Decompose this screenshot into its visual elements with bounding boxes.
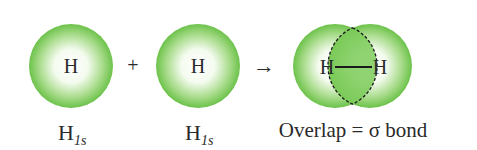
plus-sign: + [127,54,138,76]
overlap-caption: Overlap = σ bond [279,118,428,142]
sigma-bond-diagram: H H1s + H H1s → H H Overlap = σ bond [0,0,477,150]
molecule-symbol-left: H [320,56,334,78]
h2-molecule: H H [293,24,412,108]
hydrogen-atom-2: H [156,24,240,108]
reaction-arrow: → [253,53,275,78]
molecule-symbol-right: H [373,56,387,78]
hydrogen-atom-1: H [29,24,113,108]
atom-symbol-1: H [64,55,78,77]
atom-label-2: H1s [185,120,214,148]
atom-symbol-2: H [191,55,205,77]
atom-label-1: H1s [58,120,87,148]
